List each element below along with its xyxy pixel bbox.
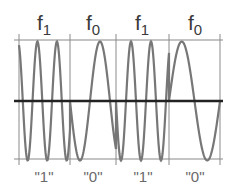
freq-label-3: f1: [135, 12, 149, 37]
bit-label-1: "1": [35, 169, 54, 184]
bit-label-3: "1": [134, 169, 153, 184]
bit-label-4: "0": [186, 169, 205, 184]
freq-label-2: f0: [86, 12, 100, 37]
bit-label-2: "0": [84, 169, 103, 184]
freq-label-4: f0: [188, 12, 202, 37]
freq-label-1: f1: [37, 12, 51, 37]
